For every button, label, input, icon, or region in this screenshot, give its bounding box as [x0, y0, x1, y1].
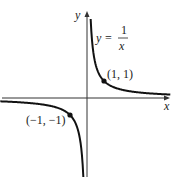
point-1-1	[101, 78, 106, 83]
point-label-1-1: (1, 1)	[107, 67, 133, 81]
point-label-neg1-neg1: (−1, −1)	[26, 113, 66, 127]
hyperbola-graph: y x y = 1 x (1, 1) (−1, −1)	[0, 0, 178, 179]
point-neg1-neg1	[67, 112, 72, 117]
y-axis-label: y	[74, 8, 81, 22]
function-denominator: x	[118, 39, 125, 53]
function-numerator: 1	[121, 23, 127, 37]
x-axis-label: x	[163, 99, 170, 113]
y-axis-arrow-icon	[85, 11, 90, 17]
function-lhs: y =	[95, 31, 112, 45]
